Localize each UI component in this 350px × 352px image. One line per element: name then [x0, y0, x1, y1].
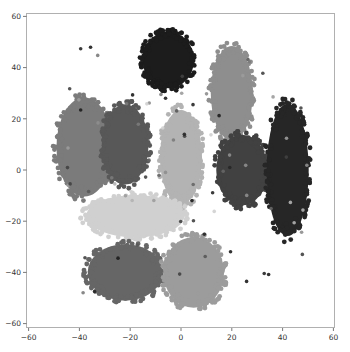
- y-tick-label: 0: [16, 166, 21, 175]
- x-tick-label: 20: [227, 333, 237, 342]
- y-tick-label: 60: [11, 12, 21, 21]
- cluster-6: [212, 129, 272, 212]
- scatter-chart: −60−40−200204060 −60−40−200204060: [0, 0, 350, 352]
- cluster-1: [138, 27, 197, 93]
- x-tick-label: 60: [329, 333, 339, 342]
- y-tick-label: −20: [5, 217, 21, 226]
- cluster-layer: [51, 27, 313, 311]
- cluster-10: [159, 231, 229, 311]
- y-axis: −60−40−200204060: [5, 12, 26, 328]
- y-tick-label: 20: [11, 115, 21, 124]
- x-tick-label: −60: [21, 333, 37, 342]
- x-tick-label: 40: [278, 333, 288, 342]
- cluster-7: [262, 96, 312, 244]
- y-tick-label: 40: [11, 63, 21, 72]
- cluster-2: [206, 41, 256, 147]
- y-tick-label: −40: [5, 268, 21, 277]
- x-axis: −60−40−200204060: [21, 328, 339, 342]
- x-tick-label: −20: [122, 333, 138, 342]
- cluster-5: [157, 103, 206, 212]
- y-tick-label: −60: [5, 319, 21, 328]
- x-tick-label: −40: [71, 333, 87, 342]
- cluster-9: [81, 239, 168, 305]
- x-tick-label: 0: [179, 333, 184, 342]
